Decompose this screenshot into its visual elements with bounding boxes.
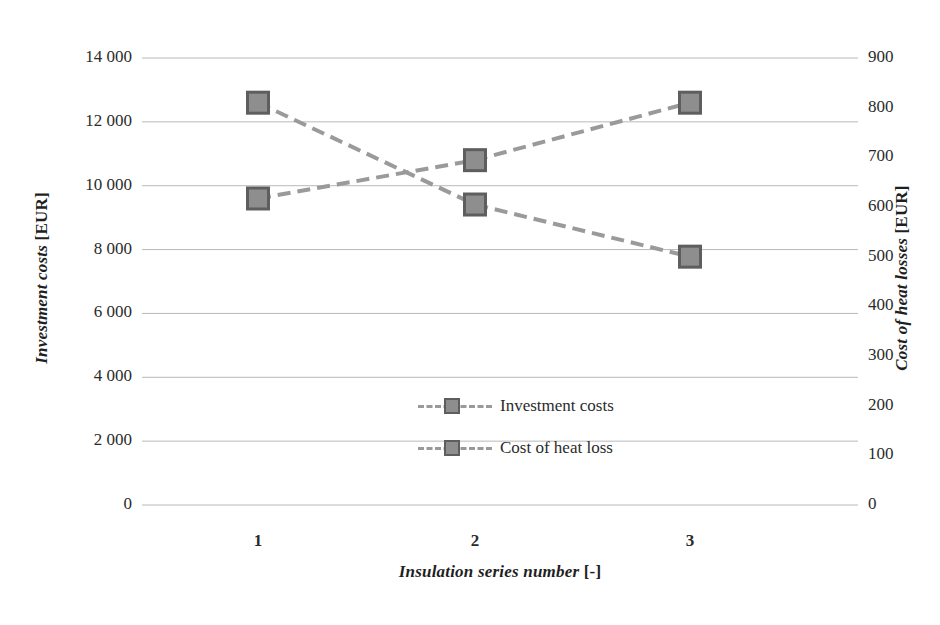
y-axis-left-tick-label: 14 000: [22, 47, 132, 67]
legend-item[interactable]: Investment costs: [418, 385, 718, 427]
legend-square-marker: [444, 440, 460, 456]
data-point-marker[interactable]: [465, 150, 486, 171]
legend-label-cost-of-heat-loss: Cost of heat loss: [492, 438, 613, 458]
data-point-marker[interactable]: [680, 246, 701, 267]
chart-container: Investment costs [EUR] Cost of heat loss…: [0, 0, 940, 625]
y-axis-left-unit: [EUR]: [32, 192, 51, 240]
y-axis-left-tick-label: 12 000: [22, 111, 132, 131]
x-axis-title: Insulation series number [-]: [142, 562, 858, 582]
legend-square-marker: [444, 398, 460, 414]
legend-key-cost-of-heat-loss: [418, 435, 492, 461]
x-axis-title-text: Insulation series number: [399, 562, 580, 581]
legend-key-investment-costs: [418, 393, 492, 419]
x-axis-tick-label: 1: [218, 531, 298, 551]
y-axis-left-tick-label: 8 000: [22, 239, 132, 259]
x-axis-tick-label: 2: [435, 531, 515, 551]
data-point-marker[interactable]: [680, 92, 701, 113]
data-series: [248, 92, 701, 209]
chart-legend: Investment costs Cost of heat loss: [418, 385, 718, 469]
legend-item[interactable]: Cost of heat loss: [418, 427, 718, 469]
y-axis-right-tick-label: 700: [868, 146, 940, 166]
y-axis-right-tick-label: 600: [868, 196, 940, 216]
y-axis-right-tick-label: 400: [868, 295, 940, 315]
data-series-layer: [248, 92, 701, 267]
y-axis-right-tick-label: 800: [868, 97, 940, 117]
y-axis-left-tick-label: 4 000: [22, 366, 132, 386]
y-axis-left-tick-label: 10 000: [22, 175, 132, 195]
y-axis-left-tick-label: 0: [22, 494, 132, 514]
x-axis-unit: [-]: [584, 562, 602, 581]
y-axis-right-tick-label: 900: [868, 47, 940, 67]
y-axis-right-tick-label: 300: [868, 345, 940, 365]
legend-label-investment-costs: Investment costs: [492, 396, 614, 416]
series-line: [258, 103, 690, 257]
y-axis-right-tick-label: 500: [868, 246, 940, 266]
y-axis-right-tick-label: 200: [868, 395, 940, 415]
data-point-marker[interactable]: [465, 194, 486, 215]
x-axis-tick-label: 3: [650, 531, 730, 551]
y-axis-left-title: Investment costs [EUR]: [32, 118, 52, 438]
y-axis-left-tick-label: 6 000: [22, 302, 132, 322]
y-axis-right-tick-label: 100: [868, 444, 940, 464]
data-point-marker[interactable]: [248, 92, 269, 113]
data-point-marker[interactable]: [248, 188, 269, 209]
y-axis-left-tick-label: 2 000: [22, 430, 132, 450]
y-axis-right-tick-label: 0: [868, 494, 940, 514]
